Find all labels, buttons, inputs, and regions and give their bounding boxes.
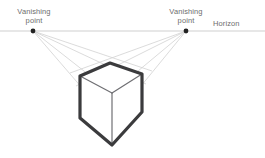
perspective-diagram-canvas: Vanishing point Vanishing point Horizon	[0, 0, 265, 158]
vanishing-point-right-dot[interactable]	[184, 29, 189, 34]
vanishing-point-left-label: Vanishing point	[8, 7, 60, 25]
vanishing-point-right-label-line1: Vanishing	[169, 7, 202, 16]
vanishing-point-left-dot[interactable]	[31, 29, 36, 34]
box-fill	[80, 63, 142, 145]
horizon-label: Horizon	[213, 19, 259, 28]
vanishing-point-right-label: Vanishing point	[160, 7, 212, 25]
vanishing-point-right-label-line2: point	[160, 16, 212, 25]
vanishing-point-left-label-line2: point	[8, 16, 60, 25]
vanishing-point-left-label-line1: Vanishing	[17, 7, 50, 16]
